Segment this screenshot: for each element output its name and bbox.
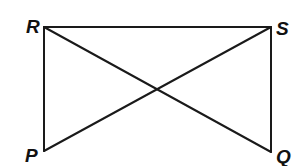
geometry-diagram: R S P Q — [0, 0, 300, 166]
vertex-label-p: P — [25, 145, 38, 166]
vertex-label-s: S — [276, 18, 289, 39]
vertex-label-r: R — [26, 16, 40, 37]
vertex-label-q: Q — [276, 146, 291, 166]
